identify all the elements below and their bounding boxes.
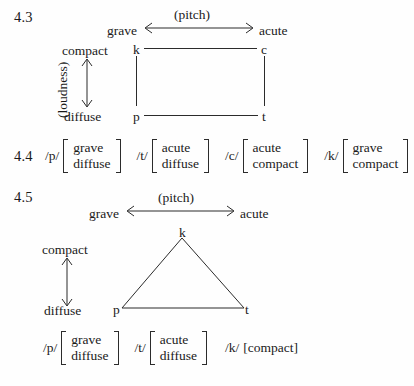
feature-2-t-4-4: diffuse bbox=[162, 156, 199, 172]
example-number-4-5: 4.5 bbox=[14, 189, 33, 206]
bracket-right-icon bbox=[403, 139, 408, 173]
phoneme-label-t-4-5: /t/ bbox=[135, 340, 146, 356]
pitch-left-label-4-5: grave bbox=[89, 207, 119, 221]
feature-2-k-4-4: compact bbox=[353, 156, 399, 172]
feature-matrix-k-4-5: /k/ [compact] bbox=[225, 340, 298, 356]
diagram-node-c-4-3: c bbox=[261, 43, 267, 57]
bracket-right-icon bbox=[204, 139, 209, 173]
diagram-edge-right-4-3 bbox=[264, 56, 265, 106]
bracket-right-icon bbox=[303, 139, 308, 173]
diagram-triangle-4-5 bbox=[118, 236, 248, 312]
bracket-right-icon bbox=[116, 139, 121, 173]
feature-1-p-4-5: grave bbox=[71, 332, 108, 348]
loudness-axis-arrow-4-5 bbox=[60, 255, 74, 309]
feature-2-p-4-4: diffuse bbox=[73, 156, 110, 172]
pitch-axis-arrow-4-3 bbox=[141, 21, 257, 35]
pitch-right-label-4-3: acute bbox=[259, 24, 287, 38]
feature-matrix-p-4-5: /p/ grave diffuse bbox=[43, 330, 119, 366]
feature-bracket-c-4-4: acute compact bbox=[243, 138, 309, 174]
pitch-axis-arrow-4-5 bbox=[123, 204, 238, 218]
phoneme-label-t-4-4: /t/ bbox=[137, 148, 148, 164]
diagram-edge-top-4-3 bbox=[144, 48, 257, 49]
feature-matrix-t-4-4: /t/ acute diffuse bbox=[137, 138, 210, 174]
feature-matrix-c-4-4: /c/ acute compact bbox=[225, 138, 308, 174]
bracket-right-icon bbox=[114, 331, 119, 365]
phoneme-label-p-4-4: /p/ bbox=[45, 148, 59, 164]
feature-1-c-4-4: acute bbox=[253, 140, 299, 156]
example-number-4-3: 4.3 bbox=[14, 9, 33, 26]
loudness-bottom-label-4-5: diffuse bbox=[44, 304, 81, 318]
feature-1-p-4-4: grave bbox=[73, 140, 110, 156]
feature-bracket-k-4-4: grave compact bbox=[343, 138, 409, 174]
phoneme-label-c-4-4: /c/ bbox=[225, 148, 239, 164]
bracket-right-icon bbox=[202, 331, 207, 365]
feature-2-t-4-5: diffuse bbox=[160, 348, 197, 364]
feature-2-p-4-5: diffuse bbox=[71, 348, 108, 364]
document-page: 4.3 (pitch) grave acute (loudness) compa… bbox=[0, 0, 414, 386]
example-number-4-4: 4.4 bbox=[14, 148, 33, 165]
feature-1-t-4-5: acute bbox=[160, 332, 197, 348]
diagram-node-p-4-3: p bbox=[133, 110, 140, 124]
feature-matrix-t-4-5: /t/ acute diffuse bbox=[135, 330, 208, 366]
feature-bracket-p-4-4: grave diffuse bbox=[63, 138, 120, 174]
loudness-bottom-label-4-3: diffuse bbox=[64, 110, 101, 124]
pitch-right-label-4-5: acute bbox=[240, 207, 268, 221]
diagram-edge-left-4-3 bbox=[136, 56, 137, 106]
feature-1-t-4-4: acute bbox=[162, 140, 199, 156]
phoneme-label-k-4-4: /k/ bbox=[324, 148, 338, 164]
feature-matrix-p-4-4: /p/ grave diffuse bbox=[45, 138, 121, 174]
loudness-axis-arrow-4-3 bbox=[80, 56, 94, 110]
feature-1-k-4-4: grave bbox=[353, 140, 399, 156]
phoneme-label-p-4-5: /p/ bbox=[43, 340, 57, 356]
diagram-edge-bottom-4-3 bbox=[144, 115, 258, 116]
feature-bracket-t-4-5: acute diffuse bbox=[150, 330, 207, 366]
diagram-node-k-4-3: k bbox=[133, 43, 140, 57]
feature-matrix-row-4-4: /p/ grave diffuse /t/ acute diffuse bbox=[45, 138, 408, 174]
diagram-node-t-4-3: t bbox=[262, 110, 266, 124]
pitch-left-label-4-3: grave bbox=[107, 24, 137, 38]
phoneme-label-k-4-5: /k/ bbox=[225, 340, 239, 356]
feature-matrix-row-4-5: /p/ grave diffuse /t/ acute diffuse bbox=[43, 330, 298, 366]
feature-bracket-p-4-5: grave diffuse bbox=[61, 330, 118, 366]
feature-bracket-t-4-4: acute diffuse bbox=[152, 138, 209, 174]
feature-inline-k-4-5: [compact] bbox=[243, 340, 298, 356]
feature-matrix-k-4-4: /k/ grave compact bbox=[324, 138, 408, 174]
feature-2-c-4-4: compact bbox=[253, 156, 299, 172]
